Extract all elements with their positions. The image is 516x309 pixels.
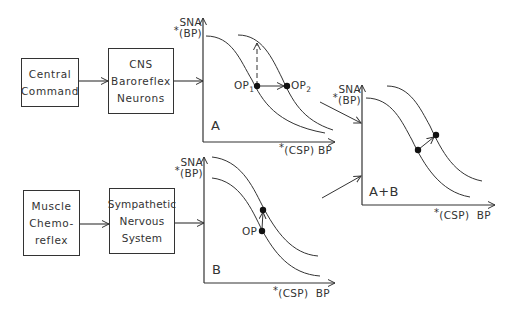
central-command-box: Central Command bbox=[21, 58, 79, 107]
muscle-chemoreflex-box: Muscle Chemo- reflex bbox=[23, 190, 80, 256]
sympathetic-nervous-box: Sympathetic Nervous System bbox=[109, 188, 175, 254]
panel-b-op-label: OP bbox=[242, 226, 257, 237]
panel-a-op1-dot bbox=[254, 83, 260, 89]
arrow-b-to-ab bbox=[322, 176, 361, 198]
panel-a-x-label: *(CSP) BP bbox=[279, 145, 332, 156]
x-label-csp: (CSP) bbox=[439, 209, 469, 221]
panel-ab-y-label: SNA *(BP) bbox=[331, 84, 361, 106]
panel-a-label: A bbox=[211, 120, 220, 131]
panel-b-curve-upper bbox=[212, 157, 318, 256]
symp-line2: Nervous bbox=[120, 213, 165, 230]
x-label-bp: BP bbox=[316, 287, 330, 299]
asterisk: * bbox=[175, 165, 180, 176]
asterisk: * bbox=[434, 207, 439, 218]
cns-line2: Baroreflex bbox=[111, 73, 171, 90]
central-command-line1: Central bbox=[29, 66, 71, 83]
panel-ab-end-dot bbox=[433, 132, 439, 138]
cns-line1: CNS bbox=[129, 56, 153, 73]
panel-b-x-label: *(CSP) BP bbox=[273, 288, 330, 299]
y-label-bp: (BP) bbox=[180, 167, 203, 179]
chemo-line1: Muscle bbox=[32, 198, 72, 215]
chemo-line3: reflex bbox=[35, 232, 68, 249]
panel-a-y-label: SNA *(BP) bbox=[172, 17, 202, 39]
x-label-csp: (CSP) bbox=[278, 287, 308, 299]
cns-line3: Neurons bbox=[117, 90, 165, 107]
panel-b-y-label: SNA *(BP) bbox=[173, 157, 203, 179]
panel-a-op2-dot bbox=[284, 83, 290, 89]
y-label-bp: (BP) bbox=[179, 27, 202, 39]
asterisk: * bbox=[279, 142, 284, 153]
panel-a-axes bbox=[203, 18, 335, 142]
panel-b-shifted-dot bbox=[260, 207, 266, 213]
symp-line3: System bbox=[122, 230, 162, 247]
panel-b-label: B bbox=[212, 264, 221, 275]
panel-a-op2-label: OP2 bbox=[291, 80, 311, 95]
diagram-canvas bbox=[0, 0, 516, 309]
panel-b-op-dot bbox=[259, 228, 265, 234]
asterisk: * bbox=[273, 285, 278, 296]
x-label-csp: (CSP) bbox=[284, 144, 314, 156]
panel-ab-x-label: *(CSP) BP bbox=[434, 210, 491, 221]
central-command-line2: Command bbox=[21, 83, 79, 100]
panel-b-curve-lower bbox=[212, 178, 320, 276]
panel-ab-shift-arrow bbox=[419, 137, 434, 149]
y-label-bp: (BP) bbox=[338, 94, 361, 106]
symp-line1: Sympathetic bbox=[108, 196, 176, 213]
x-label-bp: BP bbox=[477, 209, 491, 221]
panel-b-shift-arrow bbox=[262, 212, 263, 229]
panel-a-op1-label: OP1 bbox=[234, 80, 254, 95]
panel-ab-label: A+B bbox=[369, 186, 399, 197]
cns-baroreflex-box: CNS Baroreflex Neurons bbox=[108, 48, 174, 114]
panel-ab-start-dot bbox=[415, 147, 421, 153]
asterisk: * bbox=[174, 25, 179, 36]
asterisk: * bbox=[333, 92, 338, 103]
chemo-line2: Chemo- bbox=[29, 215, 74, 232]
x-label-bp: BP bbox=[318, 144, 332, 156]
panel-b-axes bbox=[204, 157, 335, 283]
